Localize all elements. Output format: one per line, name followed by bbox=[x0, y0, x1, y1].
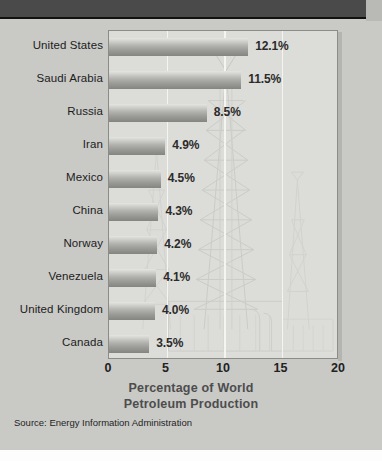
chart-figure: 12.1%11.5%8.5%4.9%4.5%4.3%4.2%4.1%4.0%3.… bbox=[0, 21, 382, 442]
x-tick-label: 0 bbox=[105, 361, 112, 375]
bar-row bbox=[109, 335, 337, 353]
bar-row bbox=[109, 236, 337, 254]
bar-row bbox=[109, 269, 337, 287]
category-label: Venezuela bbox=[0, 270, 103, 282]
bars-layer: 12.1%11.5%8.5%4.9%4.5%4.3%4.2%4.1%4.0%3.… bbox=[109, 31, 337, 358]
bar[interactable] bbox=[109, 170, 161, 188]
header-band bbox=[0, 0, 366, 19]
category-label: Canada bbox=[0, 336, 103, 348]
bar[interactable] bbox=[109, 203, 158, 221]
bar-row bbox=[109, 38, 337, 56]
bar-value-label: 4.0% bbox=[162, 303, 189, 317]
category-label: United Kingdom bbox=[0, 303, 103, 315]
source-note: Source: Energy Information Administratio… bbox=[14, 417, 192, 428]
axis-title: Percentage of World Petroleum Production bbox=[0, 380, 382, 412]
plot-drop-shadow bbox=[338, 32, 342, 361]
bar[interactable] bbox=[109, 269, 156, 287]
bottom-white-strip bbox=[0, 450, 382, 461]
bar-value-label: 12.1% bbox=[255, 39, 289, 53]
category-label: Iran bbox=[0, 138, 103, 150]
bar-row bbox=[109, 170, 337, 188]
plot-area: 12.1%11.5%8.5%4.9%4.5%4.3%4.2%4.1%4.0%3.… bbox=[108, 30, 338, 359]
bar[interactable] bbox=[109, 335, 149, 353]
bar-value-label: 8.5% bbox=[214, 105, 241, 119]
bar-value-label: 4.9% bbox=[172, 138, 199, 152]
bar-row bbox=[109, 302, 337, 320]
axis-title-line1: Percentage of World bbox=[0, 380, 382, 396]
category-label: China bbox=[0, 204, 103, 216]
category-axis: United StatesSaudi ArabiaRussiaIranMexic… bbox=[0, 30, 103, 359]
x-tick-label: 5 bbox=[162, 361, 169, 375]
bar-value-label: 4.2% bbox=[164, 237, 191, 251]
bar-row bbox=[109, 71, 337, 89]
bar-value-label: 11.5% bbox=[248, 72, 281, 86]
bar-value-label: 3.5% bbox=[156, 336, 183, 350]
bar-value-label: 4.1% bbox=[163, 270, 190, 284]
bar[interactable] bbox=[109, 302, 155, 320]
bar-value-label: 4.5% bbox=[168, 171, 195, 185]
bar[interactable] bbox=[109, 38, 248, 56]
bar[interactable] bbox=[109, 236, 157, 254]
bar[interactable] bbox=[109, 104, 207, 122]
axis-title-line2: Petroleum Production bbox=[0, 396, 382, 412]
bar[interactable] bbox=[109, 71, 241, 89]
x-axis: 05101520 bbox=[108, 361, 338, 381]
category-label: Norway bbox=[0, 237, 103, 249]
category-label: United States bbox=[0, 39, 103, 51]
category-label: Mexico bbox=[0, 171, 103, 183]
bar-row bbox=[109, 203, 337, 221]
category-label: Saudi Arabia bbox=[0, 72, 103, 84]
x-tick-label: 15 bbox=[274, 361, 288, 375]
bar-row bbox=[109, 137, 337, 155]
category-label: Russia bbox=[0, 105, 103, 117]
bar[interactable] bbox=[109, 137, 165, 155]
bar-value-label: 4.3% bbox=[165, 204, 192, 218]
header-band-shadow bbox=[366, 0, 382, 23]
x-tick-label: 20 bbox=[331, 361, 345, 375]
x-tick-label: 10 bbox=[216, 361, 230, 375]
